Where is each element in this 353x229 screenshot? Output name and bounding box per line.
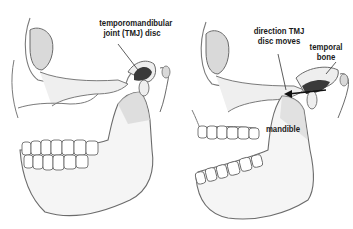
mandible-label: mandible [263, 124, 304, 134]
closed-jaw-figure: temporomandibular joint (TMJ) disc [0, 0, 176, 229]
direction-tmj-label-line2: disc moves [250, 36, 307, 46]
temporal-bone-label: temporal bone [305, 42, 348, 62]
tmj-disc-label: temporomandibular joint (TMJ) disc [99, 18, 165, 38]
temporal-bone-label-line2: bone [305, 52, 348, 62]
tmj-disc-label-line2: joint (TMJ) disc [99, 28, 165, 38]
open-jaw-figure: direction TMJ disc moves temporal bone m… [176, 0, 353, 229]
mandible-label-text: mandible [263, 124, 304, 134]
direction-tmj-label: direction TMJ disc moves [250, 26, 307, 46]
